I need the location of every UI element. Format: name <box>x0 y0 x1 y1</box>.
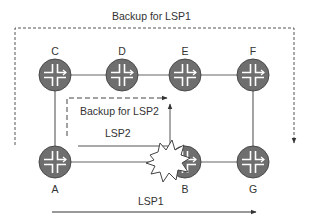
node-label-d: D <box>118 46 126 57</box>
node-label-f: F <box>250 46 256 57</box>
router-a-icon <box>39 146 71 178</box>
router-f-icon <box>237 59 269 91</box>
node-label-c: C <box>51 46 59 57</box>
node-label-b: B <box>181 184 188 195</box>
node-label-a: A <box>51 184 58 195</box>
router-e-icon <box>169 59 201 91</box>
router-c-icon <box>39 59 71 91</box>
network-diagram: Backup for LSP1 Backup for LSP2 LSP2 LSP… <box>0 0 311 224</box>
lsp1-label: LSP1 <box>138 196 164 207</box>
backup-lsp2-label: Backup for LSP2 <box>80 106 159 117</box>
lsp2-label: LSP2 <box>105 128 131 139</box>
backup-lsp1-label: Backup for LSP1 <box>112 11 191 22</box>
links <box>55 75 253 162</box>
node-label-e: E <box>181 46 188 57</box>
node-label-g: G <box>249 184 257 195</box>
router-d-icon <box>106 59 138 91</box>
router-g-icon <box>237 146 269 178</box>
